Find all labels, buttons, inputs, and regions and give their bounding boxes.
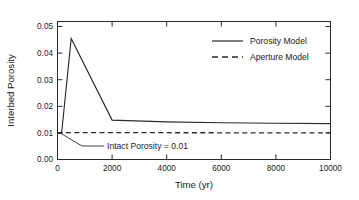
- x-tick-label: 10000: [319, 164, 342, 173]
- y-tick-label: 0.04: [37, 49, 53, 58]
- legend-label-porosity-model: Porosity Model: [250, 36, 307, 46]
- y-tick-label: 0.01: [37, 129, 53, 138]
- annotation-intact-porosity: Intact Porosity = 0.01: [107, 141, 188, 151]
- chart-figure: 0.00 0.01 0.02 0.03 0.04 0.05 0 2000 400…: [0, 0, 359, 200]
- x-tick-label: 6000: [212, 164, 231, 173]
- x-axis-title: Time (yr): [175, 179, 213, 190]
- x-tick-label: 0: [55, 164, 60, 173]
- line-chart: 0.00 0.01 0.02 0.03 0.04 0.05 0 2000 400…: [0, 0, 359, 200]
- chart-legend: Porosity Model Aperture Model: [212, 36, 309, 62]
- y-tick-label: 0.02: [37, 102, 53, 111]
- y-tick-label: 0.03: [37, 76, 53, 85]
- annotation-leader-line: [61, 133, 105, 146]
- legend-label-aperture-model: Aperture Model: [250, 52, 309, 62]
- x-tick-labels: 0 2000 4000 6000 8000 10000: [55, 164, 342, 173]
- x-tick-label: 8000: [267, 164, 286, 173]
- y-tick-label: 0.00: [37, 155, 53, 164]
- x-tick-label: 4000: [158, 164, 177, 173]
- y-axis-title: Interbed Porosity: [5, 54, 16, 127]
- y-tick-labels: 0.00 0.01 0.02 0.03 0.04 0.05: [37, 22, 53, 164]
- x-tick-label: 2000: [103, 164, 122, 173]
- y-tick-label: 0.05: [37, 22, 53, 31]
